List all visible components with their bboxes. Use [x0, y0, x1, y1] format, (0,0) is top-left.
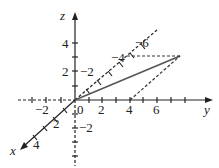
x-tick-neg4: −4	[111, 50, 125, 65]
y-axis-label: y	[202, 102, 210, 117]
projection-line-diagonal	[130, 56, 180, 100]
z-axis	[72, 16, 78, 166]
y-tick-2: 2	[98, 102, 105, 117]
z-tick-4: 4	[62, 36, 69, 51]
y-tick-4: 4	[126, 102, 133, 117]
z-axis-label: z	[59, 8, 65, 23]
coordinate-diagram: z y x 4 2 −2 0 −2 2 4 6 2 4 −2 −4 −6	[0, 0, 219, 168]
z-arrow-icon	[72, 12, 78, 20]
x-tick-2: 2	[53, 116, 60, 131]
y-tick-6: 6	[153, 102, 160, 117]
x-axis-label: x	[9, 143, 16, 158]
x-tick-neg2: −2	[80, 64, 94, 79]
origin-label: 0	[77, 102, 84, 117]
z-tick-neg2: −2	[79, 120, 93, 135]
x-tick-4: 4	[33, 137, 40, 152]
y-tick-neg2: −2	[35, 102, 49, 117]
z-tick-2: 2	[62, 64, 69, 79]
x-tick-neg6: −6	[135, 35, 149, 50]
